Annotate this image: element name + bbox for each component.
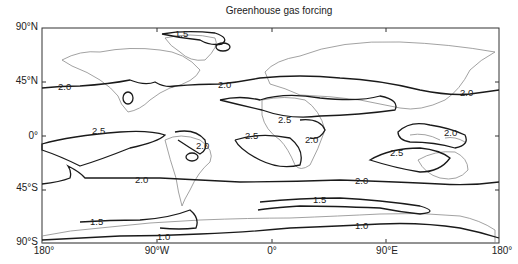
- contour-label: 2.0: [355, 175, 368, 186]
- contour-label: 2.0: [444, 127, 457, 138]
- coastlines: [42, 35, 495, 243]
- contour-label: 2.0: [218, 79, 231, 90]
- contour-label: 2.0: [305, 134, 318, 145]
- contour-label: 2.5: [278, 114, 291, 125]
- contour-label: 2.5: [92, 125, 105, 136]
- contour-map: 1.5 2.0 2.0 2.0 2.5 2.5 2.5 2.0 2.0 2.5 …: [0, 0, 518, 264]
- contour-label: 1.5: [90, 216, 103, 227]
- contour-label: 1.0: [157, 231, 170, 242]
- contour-label: 2.5: [245, 130, 258, 141]
- contour-label: 2.0: [58, 81, 71, 92]
- contour-label: 2.0: [460, 87, 473, 98]
- contour-label: 1.5: [313, 194, 326, 205]
- contour-label: 1.0: [355, 220, 368, 231]
- contour-label: 1.5: [175, 28, 188, 39]
- contour-label: 2.0: [196, 140, 209, 151]
- contour-label: 2.0: [135, 174, 148, 185]
- contour-label: 2.5: [390, 147, 403, 158]
